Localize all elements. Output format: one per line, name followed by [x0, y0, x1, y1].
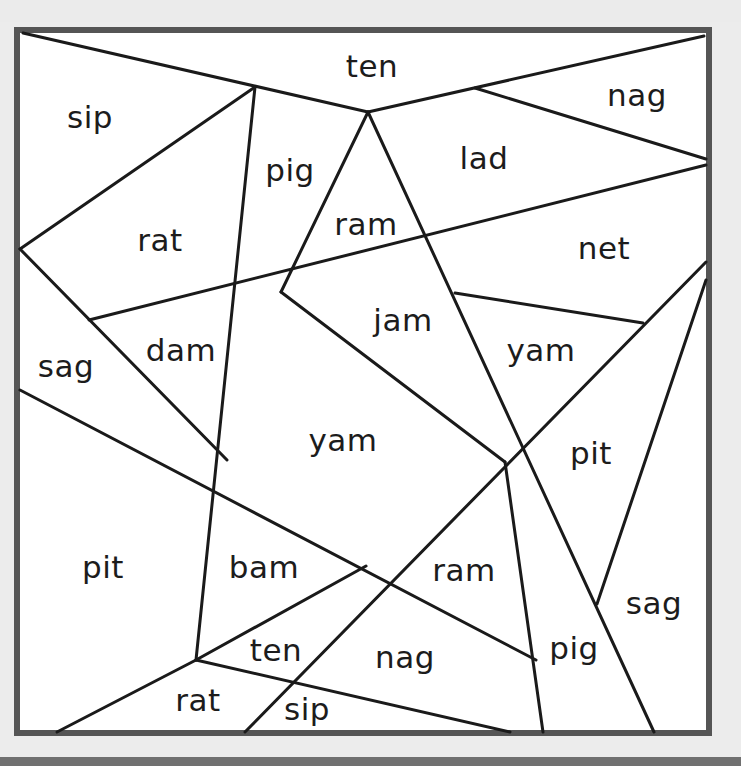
region-label-yam[interactable]: yam: [506, 335, 575, 366]
region-label-ram[interactable]: ram: [334, 209, 397, 240]
region-label-nag[interactable]: nag: [607, 80, 667, 111]
bottom-band: [0, 757, 741, 766]
region-label-nag[interactable]: nag: [375, 642, 435, 673]
word-puzzle: tennagsippigladramratnetjamdamsagyamyamp…: [0, 0, 741, 766]
region-label-dam[interactable]: dam: [146, 335, 216, 366]
region-label-pit[interactable]: pit: [82, 552, 124, 583]
region-label-rat[interactable]: rat: [175, 685, 220, 716]
region-label-pig[interactable]: pig: [549, 633, 598, 664]
region-label-ten[interactable]: ten: [250, 635, 302, 666]
region-label-sip[interactable]: sip: [284, 694, 330, 725]
region-label-jam[interactable]: jam: [373, 305, 432, 336]
region-label-lad[interactable]: lad: [460, 143, 509, 174]
region-label-ten[interactable]: ten: [346, 51, 398, 82]
region-label-sip[interactable]: sip: [67, 102, 113, 133]
region-label-pit[interactable]: pit: [570, 438, 612, 469]
region-label-ram[interactable]: ram: [432, 555, 495, 586]
region-label-bam[interactable]: bam: [229, 552, 299, 583]
region-label-pig[interactable]: pig: [265, 155, 314, 186]
region-label-sag[interactable]: sag: [626, 588, 682, 619]
region-label-net[interactable]: net: [578, 233, 630, 264]
region-label-yam[interactable]: yam: [308, 425, 377, 456]
region-label-sag[interactable]: sag: [38, 351, 94, 382]
region-label-rat[interactable]: rat: [137, 225, 182, 256]
